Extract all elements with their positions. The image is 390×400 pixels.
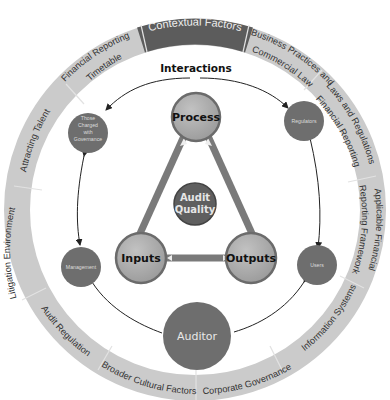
svg-text:with: with — [83, 129, 92, 135]
svg-text:Governance: Governance — [74, 136, 102, 142]
node-users: Users — [297, 245, 337, 285]
svg-text:Users: Users — [310, 262, 324, 268]
svg-text:Charged: Charged — [78, 122, 98, 128]
node-process: Process — [172, 93, 221, 141]
svg-text:Those: Those — [81, 115, 96, 121]
interactions-label: Interactions — [160, 62, 232, 74]
svg-text:Quality: Quality — [175, 204, 216, 215]
node-audit-quality: Audit Quality — [174, 183, 216, 225]
svg-text:Auditor: Auditor — [177, 330, 218, 343]
node-inputs: Inputs — [116, 233, 166, 283]
svg-text:Process: Process — [172, 111, 221, 124]
ring-segment-contextual-factors — [141, 32, 249, 40]
audit-quality-framework-diagram: Contextual Factors Business Practices an… — [0, 0, 390, 400]
node-management: Management — [61, 247, 101, 287]
svg-text:Regulators: Regulators — [291, 118, 316, 124]
node-outputs: Outputs — [226, 233, 276, 283]
node-those-charged-with-governance: Those Charged with Governance — [68, 113, 108, 153]
svg-text:Management: Management — [66, 264, 97, 270]
svg-text:Outputs: Outputs — [226, 252, 276, 265]
node-regulators: Regulators — [284, 101, 324, 141]
svg-text:Audit: Audit — [180, 192, 210, 203]
node-auditor: Auditor — [163, 302, 231, 370]
svg-text:Inputs: Inputs — [121, 252, 161, 265]
